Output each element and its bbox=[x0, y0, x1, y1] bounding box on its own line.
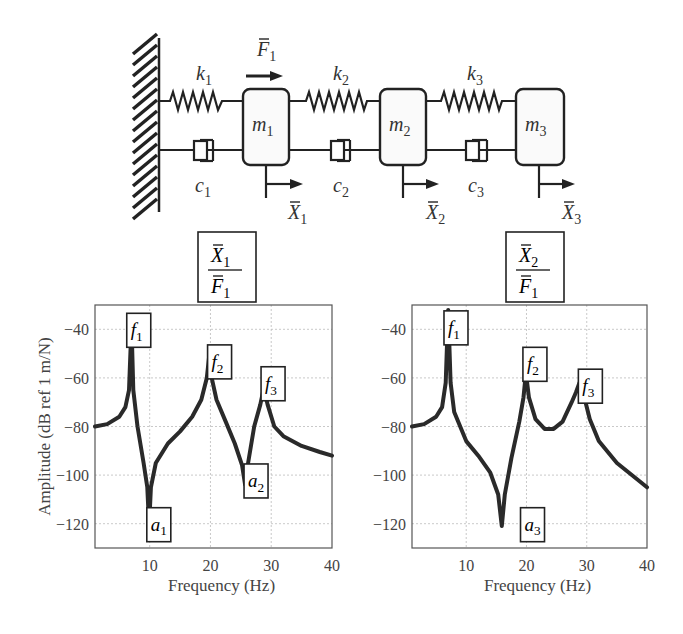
label-c2: c2 bbox=[333, 174, 349, 200]
x-tick-label: 10 bbox=[142, 557, 158, 574]
y-tick-label: −100 bbox=[373, 467, 406, 484]
label-x2: X2 bbox=[425, 201, 445, 227]
force-arrow-f1 bbox=[246, 71, 283, 81]
y-tick-label: −100 bbox=[56, 467, 89, 484]
spring-k1 bbox=[159, 92, 243, 110]
x-tick-label: 30 bbox=[263, 557, 279, 574]
annotation-f1: f1 bbox=[444, 311, 468, 345]
annotation-a2: a2 bbox=[244, 464, 268, 498]
x-tick-label: 40 bbox=[324, 557, 340, 574]
annotation-a3: a3 bbox=[521, 508, 545, 542]
displacement-arrow-x3 bbox=[539, 165, 575, 198]
y-axis-label: Amplitude (dB ref 1 m/N) bbox=[35, 337, 54, 515]
damper-c2 bbox=[289, 140, 380, 161]
y-tick-label: −40 bbox=[64, 321, 89, 338]
x-tick-label: 20 bbox=[518, 557, 534, 574]
y-tick-label: −120 bbox=[56, 516, 89, 533]
y-tick-label: −40 bbox=[381, 321, 406, 338]
annotation-f2: f2 bbox=[208, 345, 232, 379]
annotation-f2: f2 bbox=[523, 347, 547, 381]
annotation-f3: f3 bbox=[578, 369, 602, 403]
spring-k2 bbox=[289, 92, 380, 110]
y-tick-label: −120 bbox=[373, 516, 406, 533]
x-axis-label: Frequency (Hz) bbox=[484, 576, 591, 595]
frf-plots: 10203040−40−60−80−100−120Frequency (Hz)A… bbox=[35, 232, 655, 595]
y-tick-label: −60 bbox=[381, 370, 406, 387]
label-k2: k2 bbox=[333, 62, 349, 88]
label-x1: X1 bbox=[287, 201, 307, 227]
x-tick-label: 40 bbox=[639, 557, 655, 574]
label-c3: c3 bbox=[468, 174, 484, 200]
plot-title: X2F1 bbox=[506, 232, 564, 302]
x-tick-label: 10 bbox=[458, 557, 474, 574]
figure: k1k2k3m1m2m3c1c2c3X1X2X3F1 10203040−40−6… bbox=[0, 0, 683, 634]
x-axis-label: Frequency (Hz) bbox=[168, 576, 275, 595]
annotation-f3: f3 bbox=[261, 367, 285, 401]
label-k3: k3 bbox=[467, 62, 483, 88]
y-tick-label: −60 bbox=[64, 370, 89, 387]
plot-title: X1F1 bbox=[198, 232, 256, 302]
y-tick-label: −80 bbox=[381, 419, 406, 436]
label-k1: k1 bbox=[196, 62, 212, 88]
annotation-a1: a1 bbox=[147, 508, 171, 542]
label-x3: X3 bbox=[561, 201, 581, 227]
displacement-arrow-x1 bbox=[266, 165, 303, 198]
spring-k3 bbox=[426, 92, 516, 110]
plot-2: 10203040−40−60−80−100−120Frequency (Hz)f… bbox=[373, 232, 655, 595]
displacement-arrow-x2 bbox=[403, 165, 439, 198]
damper-c1 bbox=[159, 140, 243, 161]
damper-c3 bbox=[426, 140, 516, 161]
plot-1: 10203040−40−60−80−100−120Frequency (Hz)A… bbox=[35, 232, 340, 595]
label-c1: c1 bbox=[195, 174, 211, 200]
y-tick-label: −80 bbox=[64, 419, 89, 436]
x-tick-label: 30 bbox=[579, 557, 595, 574]
x-tick-label: 20 bbox=[202, 557, 218, 574]
label-f1: F1 bbox=[256, 38, 276, 64]
annotation-f1: f1 bbox=[127, 313, 151, 347]
wall-ground bbox=[133, 34, 159, 219]
